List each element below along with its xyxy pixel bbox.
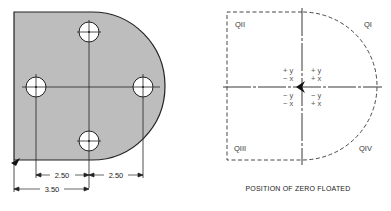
quadrant-label-q2: QII — [235, 20, 245, 29]
dimension-lines — [14, 173, 143, 191]
q2-x-sign: − x — [283, 74, 293, 83]
dim-left-hole-to-center: 2.50 — [55, 171, 70, 180]
quadrant-label-q4: QIV — [359, 144, 372, 153]
quadrant-figure: QII QI QIII QIV + y − x + y + x − y − x … — [223, 8, 382, 192]
figure-caption: POSITION OF ZERO FLOATED — [245, 185, 350, 192]
quadrant-label-q1: QI — [364, 20, 372, 29]
q4-x-sign: + x — [311, 99, 321, 108]
q3-x-sign: − x — [283, 99, 293, 108]
quadrant-label-q3: QIII — [234, 144, 246, 153]
dim-center-to-right-hole: 2.50 — [109, 171, 124, 180]
diagram-canvas: 2.50 2.50 3.50 QII QI QIII QIV + y − x +… — [0, 0, 391, 211]
q1-x-sign: + x — [311, 74, 321, 83]
plate-figure: 2.50 2.50 3.50 — [11, 12, 165, 194]
dim-left-edge-to-center: 3.50 — [45, 185, 60, 194]
